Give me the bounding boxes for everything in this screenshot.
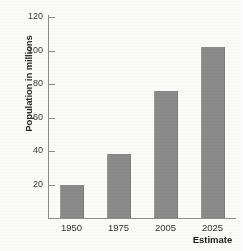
x-axis-category-label: 2005 [141, 222, 191, 233]
x-axis-category-label: 2025 [188, 222, 238, 233]
bar [201, 47, 225, 218]
x-axis-category-label: 1950 [47, 222, 97, 233]
bar-chart-figure: Population in millions 20406080100120 19… [0, 0, 242, 251]
x-axis-category-label: 1975 [94, 222, 144, 233]
bar [60, 185, 84, 219]
bar [107, 154, 131, 218]
estimate-annotation: Estimate [183, 234, 243, 245]
bars-layer [0, 0, 242, 251]
bar [154, 91, 178, 218]
